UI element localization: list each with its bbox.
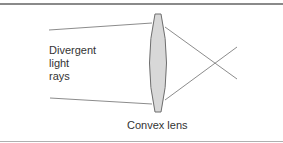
incoming-ray-bottom [50, 98, 152, 104]
rays-label-line3: rays [49, 70, 109, 83]
divergent-rays-label: Divergent light rays [49, 44, 109, 83]
convex-lens-shape [150, 14, 167, 112]
outgoing-ray-bottom [165, 47, 237, 100]
incoming-ray-top [49, 23, 152, 30]
rays-label-line2: light [49, 57, 109, 70]
bottom-rule [0, 141, 283, 142]
outgoing-ray-top [165, 27, 237, 79]
outgoing-rays [165, 27, 237, 100]
rays-label-line1: Divergent [49, 44, 109, 57]
convex-lens-label: Convex lens [127, 119, 188, 132]
